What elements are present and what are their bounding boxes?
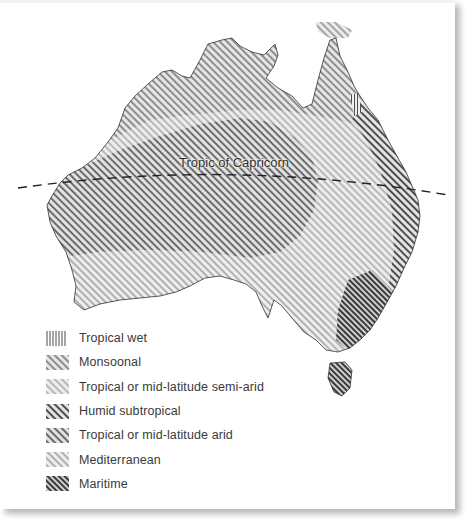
humid-subtropical-swatch-icon bbox=[46, 404, 69, 419]
legend-item: Maritime bbox=[46, 472, 264, 496]
monsoonal-swatch-icon bbox=[46, 355, 69, 370]
maritime-swatch-icon bbox=[46, 476, 69, 491]
arid-swatch-icon bbox=[46, 428, 69, 443]
legend-label: Tropical or mid-latitude semi-arid bbox=[79, 380, 264, 394]
legend-label: Tropical or mid-latitude arid bbox=[79, 428, 233, 442]
legend-item: Mediterranean bbox=[46, 447, 264, 471]
tropic-label: Tropic of Capricorn bbox=[179, 155, 289, 170]
legend-item: Monsoonal bbox=[46, 350, 264, 374]
semi-arid-swatch-icon bbox=[46, 379, 69, 394]
legend-item: Tropical or mid-latitude semi-arid bbox=[46, 375, 264, 399]
legend-item: Humid subtropical bbox=[46, 399, 264, 423]
tasmania bbox=[328, 362, 352, 396]
legend-label: Mediterranean bbox=[79, 453, 161, 467]
legend-item: Tropical wet bbox=[46, 326, 264, 350]
tropical-wet-swatch-icon bbox=[46, 331, 69, 346]
legend-label: Humid subtropical bbox=[79, 404, 181, 418]
new-guinea-tip bbox=[316, 22, 352, 38]
legend-label: Maritime bbox=[79, 477, 128, 491]
legend: Tropical wet Monsoonal Tropical or mid-l… bbox=[46, 326, 264, 496]
legend-label: Monsoonal bbox=[79, 355, 141, 369]
mediterranean-swatch-icon bbox=[46, 452, 69, 467]
map-card: Tropic of Capricorn Tropical wet Monsoon… bbox=[0, 0, 455, 509]
legend-item: Tropical or mid-latitude arid bbox=[46, 423, 264, 447]
legend-label: Tropical wet bbox=[79, 331, 147, 345]
